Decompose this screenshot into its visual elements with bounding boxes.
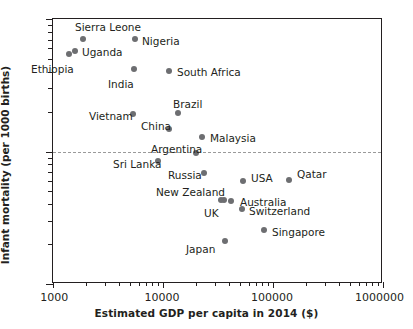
y-tick-1 — [46, 284, 53, 285]
data-label-switzerland: Switzerland — [249, 206, 310, 217]
x-tick-600000 — [359, 282, 360, 286]
x-tick-500000 — [350, 282, 351, 286]
y-tick-90 — [48, 25, 53, 26]
x-tick-400000 — [339, 282, 340, 286]
y-tick-50 — [48, 59, 53, 60]
data-point-japan[interactable] — [222, 238, 228, 244]
data-point-india[interactable] — [131, 66, 137, 72]
x-tick-700000 — [366, 282, 367, 286]
x-tick-900000 — [378, 282, 379, 286]
y-tick-80 — [48, 32, 53, 33]
x-tick-8000 — [152, 282, 153, 286]
y-tick-5 — [48, 191, 53, 192]
x-tick-label-1000000: 1000000 — [355, 292, 404, 303]
x-tick-6000 — [139, 282, 140, 286]
plot-area: EthiopiaUgandaSierra LeoneNigeriaIndiaSo… — [52, 18, 382, 283]
data-label-japan: Japan — [186, 244, 215, 255]
x-tick-100000 — [273, 282, 274, 288]
x-tick-80000 — [262, 282, 263, 286]
y-tick-100 — [46, 19, 53, 20]
data-point-russia[interactable] — [201, 170, 207, 176]
data-label-russia: Russia — [168, 170, 202, 181]
gridline-y-10 — [53, 152, 381, 153]
y-tick-70 — [48, 40, 53, 41]
y-tick-20 — [48, 112, 53, 113]
data-label-argentina: Argentina — [151, 144, 202, 155]
data-point-usa[interactable] — [240, 178, 246, 184]
data-label-uk: UK — [204, 208, 219, 219]
y-axis-title: Infant mortality (per 1000 births) — [0, 0, 12, 329]
data-label-india: India — [108, 79, 134, 90]
data-label-sierra-leone: Sierra Leone — [75, 22, 141, 33]
data-label-south-africa: South Africa — [177, 67, 241, 78]
data-label-sri-lanka: Sri Lanka — [113, 159, 162, 170]
x-tick-90000 — [268, 282, 269, 286]
y-tick-30 — [48, 88, 53, 89]
data-point-sierra-leone[interactable] — [80, 36, 86, 42]
x-tick-3000 — [105, 282, 106, 286]
y-tick-6 — [48, 181, 53, 182]
x-tick-70000 — [256, 282, 257, 286]
scatter-chart-figure: Infant mortality (per 1000 births) 10010… — [0, 0, 413, 329]
x-tick-10000 — [163, 282, 164, 288]
x-tick-200000 — [306, 282, 307, 286]
x-tick-50000 — [240, 282, 241, 286]
x-tick-label-1000: 1000 — [40, 292, 68, 303]
y-tick-3 — [48, 221, 53, 222]
y-tick-2 — [48, 244, 53, 245]
y-tick-9 — [48, 158, 53, 159]
x-axis-title: Estimated GDP per capita in 2014 ($) — [0, 307, 413, 319]
data-point-singapore[interactable] — [261, 227, 267, 233]
data-label-malaysia: Malaysia — [210, 133, 256, 144]
data-label-ethiopia: Ethiopia — [31, 64, 74, 75]
data-point-brazil[interactable] — [175, 110, 181, 116]
data-label-usa: USA — [251, 173, 273, 184]
y-tick-8 — [48, 164, 53, 165]
data-point-australia[interactable] — [228, 198, 234, 204]
data-point-ethiopia[interactable] — [66, 51, 72, 57]
x-tick-20000 — [196, 282, 197, 286]
x-tick-9000 — [158, 282, 159, 286]
y-tick-7 — [48, 172, 53, 173]
data-point-south-africa[interactable] — [166, 68, 172, 74]
data-label-nigeria: Nigeria — [142, 36, 180, 47]
y-tick-10 — [46, 152, 53, 153]
data-point-qatar[interactable] — [286, 177, 292, 183]
data-point-malaysia[interactable] — [199, 134, 205, 140]
x-tick-1000000 — [383, 282, 384, 288]
data-label-brazil: Brazil — [173, 99, 202, 110]
data-label-singapore: Singapore — [272, 227, 325, 238]
x-tick-7000 — [146, 282, 147, 286]
x-tick-300000 — [325, 282, 326, 286]
data-point-uganda[interactable] — [72, 48, 78, 54]
x-tick-60000 — [249, 282, 250, 286]
data-point-nigeria[interactable] — [132, 36, 138, 42]
x-tick-40000 — [229, 282, 230, 286]
data-label-qatar: Qatar — [297, 169, 327, 180]
y-tick-60 — [48, 48, 53, 49]
x-tick-2000 — [86, 282, 87, 286]
x-tick-30000 — [215, 282, 216, 286]
x-tick-4000 — [119, 282, 120, 286]
x-tick-800000 — [372, 282, 373, 286]
x-tick-1000 — [53, 282, 54, 288]
x-tick-label-100000: 100000 — [251, 292, 293, 303]
data-label-vietnam: Vietnam — [89, 111, 133, 122]
data-label-uganda: Uganda — [82, 47, 123, 58]
y-tick-4 — [48, 204, 53, 205]
x-tick-label-10000: 10000 — [145, 292, 180, 303]
x-tick-5000 — [130, 282, 131, 286]
y-axis-title-text: Infant mortality (per 1000 births) — [0, 65, 11, 263]
data-label-new-zealand: New Zealand — [156, 187, 225, 198]
data-label-china: China — [141, 121, 171, 132]
